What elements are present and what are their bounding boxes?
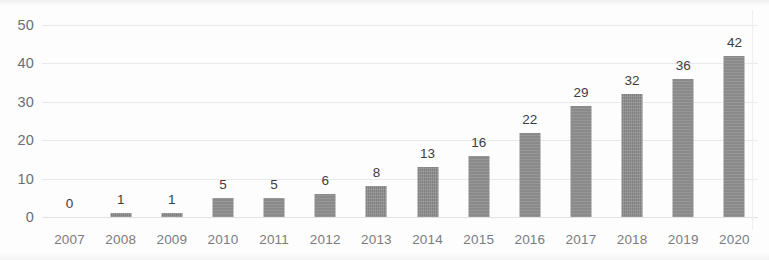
- bar-value-label: 22: [522, 112, 537, 127]
- y-axis-tick-label: 20: [17, 132, 34, 148]
- bar-value-label: 1: [117, 192, 125, 207]
- x-axis-category-label: 2020: [719, 232, 750, 247]
- bar: [212, 198, 233, 217]
- bar: [366, 186, 387, 217]
- bar-value-label: 5: [219, 177, 227, 192]
- bar: [724, 56, 745, 217]
- bar-group: 02007: [44, 0, 95, 260]
- bar: [673, 79, 694, 217]
- x-axis-category-label: 2010: [208, 232, 239, 247]
- bar: [519, 133, 540, 217]
- bar-value-label: 8: [373, 165, 381, 180]
- y-axis-tick-label: 10: [17, 171, 34, 187]
- bar-group: 12008: [95, 0, 146, 260]
- x-axis-category-label: 2015: [463, 232, 494, 247]
- bar: [570, 106, 591, 217]
- x-axis-category-label: 2019: [668, 232, 699, 247]
- plot-area: 0200712008120095201052011620128201313201…: [42, 0, 758, 260]
- bar: [161, 213, 182, 217]
- bar-chart: 01020304050 0200712008120095201052011620…: [0, 0, 769, 260]
- bar-group: 52011: [249, 0, 300, 260]
- bar: [315, 194, 336, 217]
- bar: [417, 167, 438, 217]
- bar-value-label: 0: [66, 196, 74, 211]
- x-axis-category-label: 2012: [310, 232, 341, 247]
- bar-group: 222016: [504, 0, 555, 260]
- x-axis-category-label: 2013: [361, 232, 392, 247]
- x-axis-category-label: 2018: [617, 232, 648, 247]
- x-axis-category-label: 2011: [259, 232, 289, 247]
- y-axis-tick-label: 0: [26, 209, 34, 225]
- bar-group: 162015: [453, 0, 504, 260]
- x-axis-category-label: 2014: [412, 232, 443, 247]
- bar: [110, 213, 131, 217]
- bar: [468, 156, 489, 217]
- bar-group: 132014: [402, 0, 453, 260]
- bar-value-label: 36: [676, 58, 691, 73]
- x-axis-category-label: 2016: [514, 232, 545, 247]
- bar-value-label: 32: [625, 73, 640, 88]
- bar: [264, 198, 285, 217]
- bar-value-label: 5: [270, 177, 278, 192]
- y-axis-tick-label: 50: [17, 17, 34, 33]
- bar-group: 322018: [607, 0, 658, 260]
- bar-group: 12009: [146, 0, 197, 260]
- bar-value-label: 1: [168, 192, 176, 207]
- bar-group: 82013: [351, 0, 402, 260]
- bar: [622, 94, 643, 217]
- y-axis-tick-label: 40: [17, 55, 34, 71]
- x-axis-category-label: 2007: [54, 232, 85, 247]
- bar-group: 52010: [197, 0, 248, 260]
- bar-group: 362019: [658, 0, 709, 260]
- bar-group: 422020: [709, 0, 760, 260]
- bar-value-label: 13: [420, 146, 435, 161]
- x-axis-category-label: 2017: [566, 232, 597, 247]
- y-axis: 01020304050: [0, 0, 42, 260]
- bar-value-label: 16: [471, 135, 486, 150]
- bar-value-label: 42: [727, 35, 742, 50]
- bar-series: 0200712008120095201052011620128201313201…: [42, 0, 758, 260]
- x-axis-category-label: 2009: [156, 232, 187, 247]
- bar-value-label: 6: [322, 173, 330, 188]
- x-axis-category-label: 2008: [105, 232, 136, 247]
- y-axis-tick-label: 30: [17, 94, 34, 110]
- bar-group: 62012: [300, 0, 351, 260]
- bar-group: 292017: [555, 0, 606, 260]
- bar-value-label: 29: [573, 85, 588, 100]
